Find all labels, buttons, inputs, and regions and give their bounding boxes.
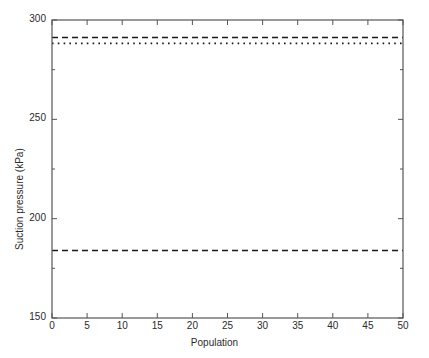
x-tick-label: 20 [172, 320, 212, 331]
x-tick-label: 45 [348, 320, 388, 331]
y-tick-label: 250 [12, 112, 46, 123]
x-tick-label: 25 [208, 320, 248, 331]
x-tick-label: 5 [67, 320, 107, 331]
x-axis-label: Population [0, 337, 429, 348]
y-tick-label: 300 [12, 13, 46, 24]
x-tick-label: 15 [137, 320, 177, 331]
x-tick-label: 35 [278, 320, 318, 331]
suction-pressure-chart [0, 0, 429, 358]
x-tick-label: 30 [243, 320, 283, 331]
y-tick-label: 150 [12, 311, 46, 322]
x-tick-label: 10 [102, 320, 142, 331]
y-axis-label: Suction pressure (kPa) [14, 148, 25, 250]
x-tick-label: 50 [383, 320, 423, 331]
x-tick-label: 40 [313, 320, 353, 331]
plot-area-background [52, 20, 403, 318]
